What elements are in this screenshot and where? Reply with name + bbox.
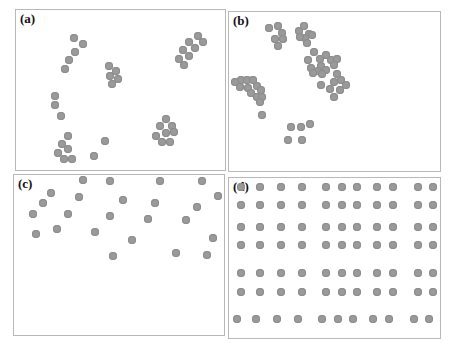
data-point — [256, 288, 264, 296]
data-point — [106, 212, 114, 220]
data-point — [300, 22, 308, 30]
data-point — [373, 201, 381, 209]
data-point — [79, 40, 87, 48]
data-point — [57, 112, 65, 120]
data-point — [298, 241, 306, 249]
data-point — [296, 33, 304, 41]
data-point — [353, 288, 361, 296]
data-point — [64, 145, 72, 153]
data-point — [304, 56, 312, 64]
data-point — [298, 223, 306, 231]
data-point — [237, 183, 245, 191]
data-point — [64, 210, 72, 218]
data-point — [334, 315, 342, 323]
data-point — [298, 183, 306, 191]
data-point — [373, 223, 381, 231]
data-point — [182, 216, 190, 224]
data-point — [51, 101, 59, 109]
data-point — [338, 288, 346, 296]
data-point — [51, 92, 59, 100]
data-point — [101, 137, 109, 145]
data-point — [185, 52, 193, 60]
data-point — [151, 199, 159, 207]
data-point — [198, 177, 206, 185]
data-point — [389, 288, 397, 296]
data-point — [284, 136, 292, 144]
data-point — [191, 44, 199, 52]
data-point — [47, 189, 55, 197]
data-point — [373, 288, 381, 296]
data-point — [429, 201, 437, 209]
data-point — [170, 128, 178, 136]
data-point — [60, 155, 68, 163]
data-point — [91, 228, 99, 236]
data-point — [256, 241, 264, 249]
data-point — [162, 129, 170, 137]
panel-label: (a) — [20, 11, 35, 27]
data-point — [109, 252, 117, 260]
data-point — [389, 183, 397, 191]
data-point — [353, 223, 361, 231]
data-point — [429, 269, 437, 277]
data-point — [128, 236, 136, 244]
data-point — [414, 183, 422, 191]
data-point — [70, 34, 78, 42]
data-point — [203, 251, 211, 259]
data-point — [237, 241, 245, 249]
data-point — [333, 55, 341, 63]
data-point — [106, 177, 114, 185]
data-point — [309, 69, 317, 77]
data-point — [389, 241, 397, 249]
data-point — [353, 201, 361, 209]
data-point — [236, 83, 244, 91]
data-point — [353, 269, 361, 277]
data-point — [71, 48, 79, 56]
data-point — [61, 65, 69, 73]
data-point — [429, 288, 437, 296]
data-point — [298, 288, 306, 296]
data-point — [373, 269, 381, 277]
data-point — [389, 201, 397, 209]
data-point — [373, 241, 381, 249]
data-point — [256, 269, 264, 277]
data-point — [349, 315, 357, 323]
data-point — [172, 249, 180, 257]
data-point — [274, 42, 282, 50]
data-point — [144, 215, 152, 223]
data-point — [385, 315, 393, 323]
data-point — [429, 183, 437, 191]
data-point — [79, 176, 87, 184]
data-point — [53, 225, 61, 233]
data-point — [353, 241, 361, 249]
data-point — [414, 269, 422, 277]
data-point — [90, 152, 98, 160]
data-point — [209, 234, 217, 242]
data-point — [322, 288, 330, 296]
data-point — [214, 192, 222, 200]
data-point — [338, 201, 346, 209]
data-point — [256, 183, 264, 191]
data-point — [297, 123, 305, 131]
data-point — [237, 269, 245, 277]
data-point — [322, 183, 330, 191]
data-point — [369, 315, 377, 323]
data-point — [308, 31, 316, 39]
data-point — [277, 241, 285, 249]
data-point — [180, 61, 188, 69]
data-point — [237, 201, 245, 209]
data-point — [39, 199, 47, 207]
data-point — [373, 183, 381, 191]
data-point — [414, 241, 422, 249]
data-point — [277, 223, 285, 231]
data-point — [294, 315, 302, 323]
data-point — [298, 201, 306, 209]
data-point — [277, 201, 285, 209]
data-point — [199, 38, 207, 46]
data-point — [166, 138, 174, 146]
data-point — [414, 201, 422, 209]
data-point — [256, 223, 264, 231]
panel-label: (b) — [233, 13, 249, 29]
data-point — [298, 136, 306, 144]
data-point — [338, 269, 346, 277]
data-point — [410, 315, 418, 323]
